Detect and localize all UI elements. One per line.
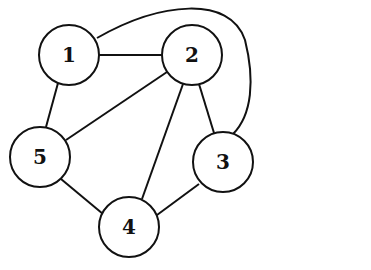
node-4: 4 <box>99 197 159 257</box>
node-label: 1 <box>62 43 76 67</box>
node-1: 1 <box>39 25 99 85</box>
edge-1-5 <box>46 83 58 127</box>
edge-5-4 <box>61 179 103 214</box>
node-5: 5 <box>10 127 70 187</box>
node-3: 3 <box>193 132 253 192</box>
node-2: 2 <box>162 25 222 85</box>
edge-4-3 <box>157 184 199 215</box>
graph-diagram: 1 2 3 4 5 <box>0 0 371 270</box>
node-label: 3 <box>216 150 230 174</box>
edge-2-3 <box>199 84 214 133</box>
nodes: 1 2 3 4 5 <box>10 25 253 257</box>
node-label: 5 <box>33 145 47 169</box>
node-label: 2 <box>185 43 199 67</box>
edge-2-4 <box>142 84 183 199</box>
node-label: 4 <box>122 215 136 239</box>
